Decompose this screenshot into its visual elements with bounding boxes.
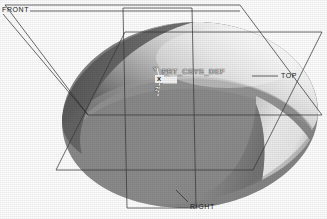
cad-3d-viewport[interactable]: FRONT TOP RIGHT PRT_CSYS_DEF Y X Z: [0, 0, 327, 219]
axis-label-y: Y: [153, 66, 157, 73]
datum-label-front[interactable]: FRONT: [2, 6, 29, 14]
cad-geometry-canvas: [0, 0, 327, 219]
csys-name-label[interactable]: PRT_CSYS_DEF: [162, 68, 225, 76]
dome-specular: [156, 28, 300, 88]
axis-label-z: Z: [155, 86, 159, 93]
axis-label-x: X: [157, 76, 161, 83]
csys-name-plate: [163, 77, 177, 84]
datum-label-right[interactable]: RIGHT: [190, 203, 215, 211]
solid-model-shading: [62, 22, 318, 219]
leader-front-diag: [3, 14, 88, 115]
datum-label-top[interactable]: TOP: [281, 72, 297, 80]
